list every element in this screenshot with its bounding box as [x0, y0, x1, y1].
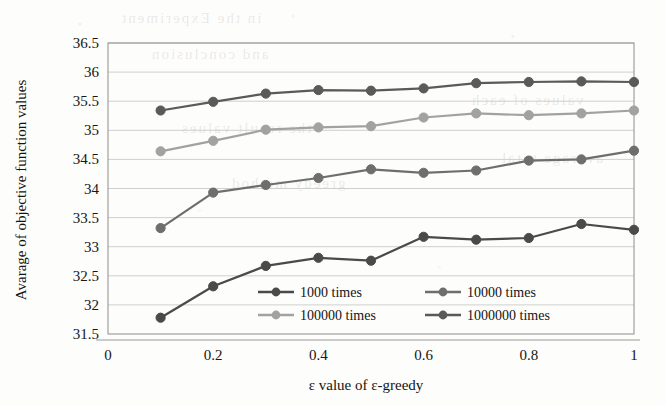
legend-label: 100000 times [300, 308, 376, 323]
y-tick-label: 33.5 [73, 210, 99, 226]
chart-figure: 31.53232.53333.53434.53535.53636.5 00.20… [0, 0, 666, 405]
data-point-marker [524, 233, 533, 242]
legend-marker-icon [272, 311, 281, 320]
series-line [161, 151, 634, 228]
x-tick-label: 1 [630, 347, 638, 363]
y-tick-label: 35.5 [73, 93, 99, 109]
data-point-marker [366, 86, 375, 95]
legend-item-0[interactable]: 1000 times [258, 285, 362, 300]
x-tick-label: 0.4 [309, 347, 328, 363]
data-point-marker [366, 122, 375, 131]
data-point-marker [419, 84, 428, 93]
data-point-marker [419, 168, 428, 177]
y-tick-label: 33 [84, 239, 99, 255]
legend-marker-icon [439, 288, 448, 297]
line-chart: 31.53232.53333.53434.53535.53636.5 00.20… [0, 0, 666, 405]
data-point-marker [629, 106, 638, 115]
data-point-marker [261, 125, 270, 134]
data-series-group [156, 77, 639, 323]
y-tick-label: 32 [84, 297, 99, 313]
data-point-marker [209, 282, 218, 291]
y-tick-label: 36.5 [73, 35, 99, 51]
legend-item-2[interactable]: 100000 times [258, 308, 376, 323]
data-point-marker [209, 188, 218, 197]
legend-item-3[interactable]: 1000000 times [425, 308, 550, 323]
data-point-marker [524, 111, 533, 120]
series-line [161, 111, 634, 152]
legend-label: 1000000 times [467, 308, 550, 323]
data-point-marker [156, 224, 165, 233]
y-axis-tick-labels: 31.53232.53333.53434.53535.53636.5 [73, 35, 100, 342]
data-point-marker [419, 232, 428, 241]
y-tick-label: 36 [84, 64, 100, 80]
data-point-marker [577, 109, 586, 118]
data-point-marker [629, 225, 638, 234]
data-point-marker [629, 146, 638, 155]
x-tick-label: 0.6 [414, 347, 433, 363]
data-point-marker [156, 313, 165, 322]
data-point-marker [366, 165, 375, 174]
data-point-marker [629, 77, 638, 86]
x-axis-tick-labels: 00.20.40.60.81 [104, 347, 638, 363]
data-point-marker [261, 261, 270, 270]
data-point-marker [577, 77, 586, 86]
data-point-marker [209, 97, 218, 106]
legend-label: 1000 times [300, 285, 362, 300]
data-point-marker [314, 173, 323, 182]
y-tick-label: 35 [84, 122, 99, 138]
legend-label: 10000 times [467, 285, 536, 300]
data-point-marker [261, 89, 270, 98]
data-point-marker [156, 147, 165, 156]
data-point-marker [209, 136, 218, 145]
data-point-marker [524, 77, 533, 86]
series-0 [156, 219, 639, 322]
series-line [161, 224, 634, 318]
x-tick-label: 0.2 [204, 347, 223, 363]
legend-marker-icon [272, 288, 281, 297]
data-point-marker [156, 106, 165, 115]
series-2 [156, 106, 639, 156]
y-tick-label: 34.5 [73, 151, 99, 167]
legend-marker-icon [439, 311, 448, 320]
data-point-marker [261, 180, 270, 189]
series-3 [156, 77, 639, 115]
data-point-marker [472, 235, 481, 244]
x-tick-label: 0 [104, 347, 112, 363]
legend-item-1[interactable]: 10000 times [425, 285, 536, 300]
y-tick-label: 34 [84, 181, 100, 197]
y-tick-label: 32.5 [73, 268, 99, 284]
series-line [161, 81, 634, 110]
data-point-marker [472, 109, 481, 118]
data-point-marker [419, 113, 428, 122]
y-tick-label: 31.5 [73, 326, 99, 342]
data-point-marker [314, 86, 323, 95]
data-point-marker [472, 79, 481, 88]
data-point-marker [577, 155, 586, 164]
data-point-marker [314, 253, 323, 262]
data-point-marker [366, 256, 375, 265]
data-point-marker [472, 166, 481, 175]
x-axis-title: ε value of ε-greedy [309, 377, 424, 393]
chart-legend: 1000 times10000 times100000 times1000000… [258, 285, 550, 323]
x-tick-label: 0.8 [519, 347, 538, 363]
data-point-marker [314, 123, 323, 132]
y-axis-title: Avarage of objective function values [13, 80, 29, 301]
data-point-marker [524, 156, 533, 165]
data-point-marker [577, 219, 586, 228]
